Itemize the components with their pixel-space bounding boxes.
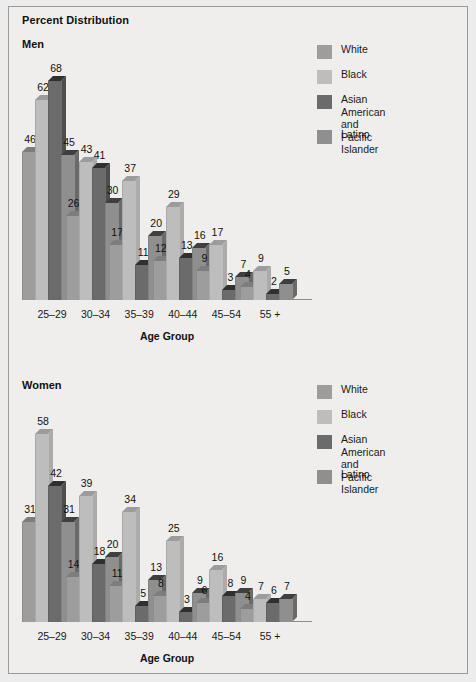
bar-face	[135, 265, 149, 300]
bar-face	[109, 586, 123, 622]
bar-face	[79, 162, 93, 300]
bar: 6	[266, 603, 279, 622]
bar-value-label: 39	[75, 477, 99, 489]
bar-group: 4767	[240, 400, 300, 622]
bar: 58	[35, 434, 48, 622]
bar: 11	[109, 586, 122, 622]
bar-value-label: 5	[275, 265, 299, 277]
legend-label: Latino	[341, 468, 370, 481]
bar-face	[266, 603, 280, 622]
legend-swatch-icon	[317, 385, 332, 399]
bar-value-label: 29	[162, 188, 186, 200]
bar-face	[153, 596, 167, 622]
bar-face	[22, 152, 36, 300]
bar: 4	[240, 287, 253, 300]
bar-face	[66, 216, 80, 300]
legend-label: Asian American and Pacific Islander	[341, 93, 385, 156]
bar-face	[166, 207, 180, 300]
bar-value-label: 42	[44, 467, 68, 479]
bar: 46	[22, 152, 35, 300]
panel-title-women: Women	[22, 379, 62, 391]
legend-label: Latino	[341, 128, 370, 141]
bar-face	[166, 541, 180, 622]
bar-value-label: 37	[118, 162, 142, 174]
legend-swatch-icon	[317, 70, 332, 84]
bar-value-label: 58	[31, 415, 55, 427]
bar: 25	[166, 541, 179, 622]
bar: 4	[240, 609, 253, 622]
bar: 12	[153, 261, 166, 300]
bar: 3	[179, 612, 192, 622]
legend-swatch-icon	[317, 435, 332, 449]
bar-group: 4925	[240, 60, 300, 300]
bar: 8	[222, 596, 235, 622]
bar-face	[22, 522, 36, 622]
legend-label: Asian American and Pacific Islander	[341, 433, 385, 496]
bar: 14	[66, 577, 79, 622]
bar: 6	[196, 603, 209, 622]
bar-face	[35, 100, 49, 300]
bar-value-label: 34	[118, 493, 142, 505]
bar: 29	[166, 207, 179, 300]
bar-face	[279, 284, 293, 300]
x-tick-label: 55 +	[232, 630, 308, 642]
bar: 37	[122, 181, 135, 300]
legend-swatch-icon	[317, 470, 332, 484]
bar-face	[79, 496, 93, 622]
bar-value-label: 9	[249, 252, 273, 264]
bar: 34	[122, 512, 135, 622]
bar: 62	[35, 100, 48, 300]
bar-face	[153, 261, 167, 300]
bar: 7	[279, 599, 292, 622]
bar-face	[35, 434, 49, 622]
panel-title-men: Men	[22, 38, 44, 50]
bar: 11	[135, 265, 148, 300]
legend-label: White	[341, 43, 368, 56]
axis-title-women: Age Group	[22, 652, 312, 664]
bar: 2	[266, 294, 279, 300]
legend-swatch-icon	[317, 410, 332, 424]
bar-face	[66, 577, 80, 622]
bar-face	[196, 271, 210, 300]
bar: 68	[48, 81, 61, 300]
bar: 8	[153, 596, 166, 622]
bar: 18	[92, 564, 105, 622]
bar-face	[48, 81, 62, 300]
legend-label: Black	[341, 68, 367, 81]
bar: 9	[196, 271, 209, 300]
x-tick-label: 55 +	[232, 308, 308, 320]
legend-swatch-icon	[317, 95, 332, 109]
figure-page: Percent Distribution Men WhiteBlackAsian…	[0, 0, 476, 682]
bar: 31	[22, 522, 35, 622]
bar: 5	[135, 606, 148, 622]
bar-value-label: 16	[205, 551, 229, 563]
bar-value-label: 25	[162, 522, 186, 534]
bar-face	[109, 245, 123, 300]
bar-value-label: 17	[205, 226, 229, 238]
bar-face	[135, 606, 149, 622]
bar-value-label: 68	[44, 62, 68, 74]
bar: 5	[279, 284, 292, 300]
bar: 13	[179, 258, 192, 300]
legend-label: Black	[341, 408, 367, 421]
bar: 17	[109, 245, 122, 300]
plot-area-women: 3158423114391820113451382539616894767	[22, 400, 312, 622]
bar: 3	[222, 290, 235, 300]
bar: 26	[66, 216, 79, 300]
bar-face	[92, 564, 106, 622]
legend-swatch-icon	[317, 130, 332, 144]
bar: 39	[79, 496, 92, 622]
bar-face	[240, 609, 254, 622]
plot-area-men: 4662684526434130173711201229131691737492…	[22, 60, 312, 300]
bar-face	[179, 612, 193, 622]
legend-label: White	[341, 383, 368, 396]
figure-title: Percent Distribution	[22, 14, 129, 26]
legend-swatch-icon	[317, 45, 332, 59]
axis-title-men: Age Group	[22, 330, 312, 342]
bar-face	[240, 287, 254, 300]
bar-value-label: 7	[275, 580, 299, 592]
bar-face	[179, 258, 193, 300]
bar: 43	[79, 162, 92, 300]
bar-face	[196, 603, 210, 622]
bar-face	[122, 181, 136, 300]
